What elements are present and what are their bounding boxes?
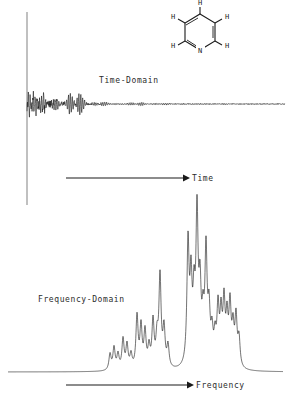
nmr-figure: H H H H H N: [0, 0, 289, 403]
hydrogen-label-upper-left: H: [171, 13, 175, 21]
hydrogen-label-lower-left: H: [171, 42, 175, 50]
time-axis-label: Time: [192, 174, 214, 183]
hydrogen-label-upper-right: H: [225, 13, 229, 21]
figure-background: [0, 0, 289, 403]
time-domain-label: Time-Domain: [99, 76, 159, 85]
frequency-domain-label: Frequency-Domain: [38, 295, 125, 304]
hydrogen-label-lower-right: H: [225, 42, 229, 50]
frequency-axis-label: Frequency: [196, 381, 245, 390]
hydrogen-label-top: H: [198, 0, 202, 7]
nitrogen-label: N: [198, 47, 202, 55]
